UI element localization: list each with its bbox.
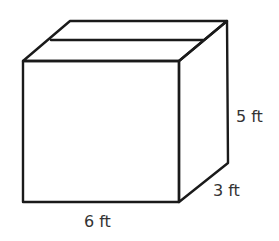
front-face bbox=[23, 61, 179, 202]
side-face bbox=[179, 21, 228, 202]
box-diagram: 5 ft 3 ft 6 ft bbox=[0, 0, 279, 241]
height-label: 5 ft bbox=[236, 107, 263, 126]
width-label: 3 ft bbox=[213, 181, 240, 200]
length-label: 6 ft bbox=[84, 212, 111, 231]
